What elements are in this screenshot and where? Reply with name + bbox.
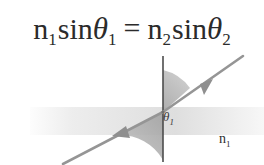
subscript-1: 1 (108, 30, 117, 49)
snells-law-equation: n1sinθ1 = n2sinθ2 (0, 0, 264, 56)
subscript-1: 1 (48, 30, 57, 49)
refractive-index-n1: n (33, 12, 48, 45)
medium-label-n1-subscript: 1 (226, 139, 231, 149)
sine-function-right: sin (172, 12, 207, 45)
subscript-2: 2 (162, 30, 171, 49)
medium-label-n1-letter: n (219, 131, 226, 146)
angle-label-theta1-subscript: 1 (169, 117, 174, 127)
equation-right-side: n2sinθ2 (147, 13, 230, 44)
angle-label-theta1: θ1 (163, 110, 174, 123)
equation-left-side: n1sinθ1 (33, 13, 116, 44)
refractive-index-n2: n (147, 12, 162, 45)
sine-function-left: sin (58, 12, 93, 45)
refraction-diagram: n1 n2 θ1 θ2 (0, 52, 264, 165)
angle-theta2: θ (207, 11, 222, 46)
medium-label-n1: n1 (219, 132, 231, 146)
angle-theta1: θ (93, 11, 108, 46)
subscript-2: 2 (222, 30, 231, 49)
snells-law-figure: n1sinθ1 = n2sinθ2 (0, 0, 264, 165)
equals-sign: = (124, 13, 141, 43)
refraction-diagram-svg (0, 52, 264, 165)
